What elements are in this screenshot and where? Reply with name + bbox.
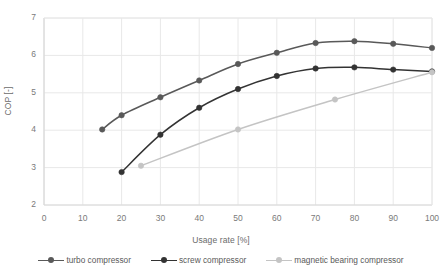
y-tick-label: 2 bbox=[14, 199, 36, 209]
y-tick-label: 7 bbox=[14, 12, 36, 22]
legend-label: screw compressor bbox=[179, 255, 246, 265]
legend-marker-icon bbox=[266, 255, 292, 265]
data-point bbox=[235, 61, 240, 66]
data-point bbox=[235, 86, 240, 91]
legend-label: turbo compressor bbox=[66, 255, 131, 265]
legend-label: magnetic bearing compressor bbox=[294, 255, 403, 265]
gridlines bbox=[44, 18, 432, 205]
x-tick-label: 100 bbox=[417, 213, 442, 223]
data-point bbox=[429, 45, 434, 50]
data-point bbox=[391, 67, 396, 72]
data-series-layer bbox=[100, 38, 435, 174]
x-tick-label: 90 bbox=[378, 213, 408, 223]
y-tick-label: 6 bbox=[14, 49, 36, 59]
data-point bbox=[158, 132, 163, 137]
legend-marker-icon bbox=[38, 255, 64, 265]
legend-item-1[interactable]: turbo compressor bbox=[38, 255, 131, 265]
y-axis-title: COP [-] bbox=[3, 76, 13, 126]
x-tick-label: 0 bbox=[29, 213, 59, 223]
chart-legend: turbo compressorscrew compressormagnetic… bbox=[0, 252, 442, 268]
y-tick-label: 4 bbox=[14, 124, 36, 134]
data-point bbox=[274, 73, 279, 78]
data-point bbox=[429, 70, 434, 75]
chart-figure: COP [-] Usage rate [%] 234567 0102030405… bbox=[0, 0, 442, 270]
x-tick-label: 80 bbox=[339, 213, 369, 223]
series-3 bbox=[138, 70, 434, 169]
data-point bbox=[313, 66, 318, 71]
data-point bbox=[197, 78, 202, 83]
data-point bbox=[235, 127, 240, 132]
x-tick-label: 50 bbox=[223, 213, 253, 223]
legend-item-2[interactable]: screw compressor bbox=[151, 255, 246, 265]
data-point bbox=[138, 163, 143, 168]
data-point bbox=[332, 97, 337, 102]
y-tick-label: 5 bbox=[14, 87, 36, 97]
data-point bbox=[100, 127, 105, 132]
data-point bbox=[352, 65, 357, 70]
legend-marker-icon bbox=[151, 255, 177, 265]
x-tick-label: 60 bbox=[262, 213, 292, 223]
plot-area bbox=[0, 0, 442, 270]
y-tick-label: 3 bbox=[14, 162, 36, 172]
data-point bbox=[119, 169, 124, 174]
data-point bbox=[352, 38, 357, 43]
data-point bbox=[274, 50, 279, 55]
legend-item-3[interactable]: magnetic bearing compressor bbox=[266, 255, 403, 265]
data-point bbox=[119, 113, 124, 118]
x-tick-label: 20 bbox=[107, 213, 137, 223]
x-tick-label: 30 bbox=[145, 213, 175, 223]
x-axis-title: Usage rate [%] bbox=[0, 235, 442, 245]
data-point bbox=[391, 41, 396, 46]
data-point bbox=[313, 40, 318, 45]
x-tick-label: 40 bbox=[184, 213, 214, 223]
x-tick-label: 10 bbox=[68, 213, 98, 223]
x-tick-label: 70 bbox=[301, 213, 331, 223]
data-point bbox=[158, 95, 163, 100]
data-point bbox=[197, 105, 202, 110]
